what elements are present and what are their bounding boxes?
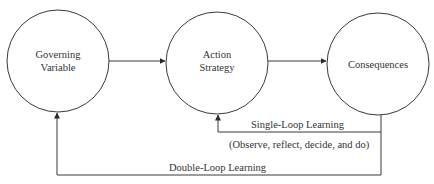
governing-variable-label: Governing Variable xyxy=(18,48,98,74)
double-loop-label: Double-Loop Learning xyxy=(169,162,266,174)
action-strategy-label: Action Strategy xyxy=(177,48,257,74)
consequences-line1: Consequences xyxy=(328,58,428,71)
learning-loop-diagram xyxy=(0,0,434,184)
governing-variable-line1: Governing xyxy=(18,48,98,61)
single-loop-sublabel: (Observe, reflect, decide, and do) xyxy=(229,139,369,151)
action-strategy-line2: Strategy xyxy=(177,61,257,74)
single-loop-label: Single-Loop Learning xyxy=(251,119,344,131)
consequences-label: Consequences xyxy=(328,58,428,71)
governing-variable-line2: Variable xyxy=(18,61,98,74)
action-strategy-line1: Action xyxy=(177,48,257,61)
